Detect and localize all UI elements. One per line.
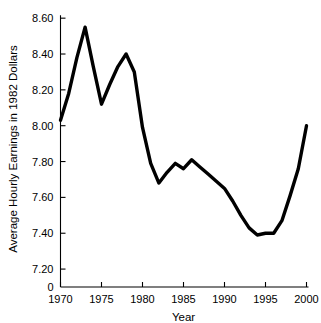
y-tick-label: 7.40: [32, 227, 53, 239]
axis-origin-label: 0: [47, 281, 53, 293]
x-tick-label: 1970: [48, 293, 72, 305]
x-tick-label: 1980: [130, 293, 154, 305]
x-tick-label: 2000: [294, 293, 318, 305]
y-tick-label: 7.60: [32, 191, 53, 203]
y-tick-label: 7.80: [32, 156, 53, 168]
y-tick-label: 8.20: [32, 84, 53, 96]
x-tick-label: 1985: [171, 293, 195, 305]
x-axis-tick-labels: 1970197519801985199019952000: [48, 293, 318, 305]
y-tick-label: 7.20: [32, 263, 53, 275]
x-axis-title: Year: [172, 311, 195, 323]
x-tick-label: 1995: [253, 293, 277, 305]
x-tick-label: 1975: [89, 293, 113, 305]
y-tick-label: 8.40: [32, 48, 53, 60]
y-axis-tick-marks: [61, 18, 66, 269]
x-axis-tick-marks: [61, 282, 307, 287]
y-tick-label: 8.00: [32, 120, 53, 132]
chart-figure: 7.207.407.607.808.008.208.408.60 1970197…: [0, 0, 321, 323]
x-tick-label: 1990: [212, 293, 236, 305]
line-chart: 7.207.407.607.808.008.208.408.60 1970197…: [0, 0, 321, 323]
y-axis-title: Average Hourly Earnings in 1982 Dollars: [7, 45, 19, 253]
data-series-line: [61, 27, 307, 235]
y-axis-tick-labels: 7.207.407.607.808.008.208.408.60: [32, 12, 53, 275]
y-tick-label: 8.60: [32, 12, 53, 24]
